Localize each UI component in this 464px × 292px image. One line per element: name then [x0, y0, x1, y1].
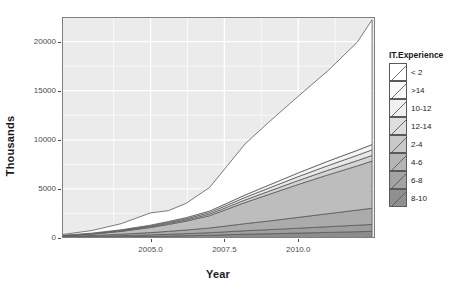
- legend-swatch: [389, 189, 407, 207]
- x-tick-label: 2007.5: [199, 245, 249, 255]
- y-tick-mark: [58, 238, 61, 239]
- y-tick-label: 5000: [12, 184, 56, 194]
- y-tick-mark: [58, 189, 61, 190]
- legend-label: 10-12: [411, 104, 431, 113]
- legend-swatch: [389, 171, 407, 189]
- y-tick-label: 0: [12, 233, 56, 243]
- x-axis-title: Year: [60, 268, 376, 280]
- legend-title: IT.Experience: [389, 50, 461, 60]
- x-tick-mark: [224, 239, 225, 242]
- y-tick-label: 20000: [12, 37, 56, 47]
- legend-swatch: [389, 153, 407, 171]
- y-tick-mark: [58, 91, 61, 92]
- legend-item[interactable]: 8-10: [389, 189, 461, 207]
- x-tick-mark: [298, 239, 299, 242]
- legend-swatch: [389, 135, 407, 153]
- legend-item[interactable]: 12-14: [389, 117, 461, 135]
- legend-label: 2-4: [411, 140, 423, 149]
- y-tick-mark: [58, 42, 61, 43]
- legend-swatch: [389, 117, 407, 135]
- legend-item[interactable]: < 2: [389, 63, 461, 81]
- y-tick-mark: [58, 140, 61, 141]
- legend-label: 8-10: [411, 194, 427, 203]
- legend: IT.Experience < 2>1410-1212-142-44-66-88…: [389, 50, 461, 207]
- y-tick-label: 10000: [12, 135, 56, 145]
- legend-item[interactable]: 2-4: [389, 135, 461, 153]
- y-tick-label: 15000: [12, 86, 56, 96]
- legend-swatch: [389, 63, 407, 81]
- x-tick-mark: [151, 239, 152, 242]
- legend-label: 4-6: [411, 158, 423, 167]
- legend-label: 12-14: [411, 122, 431, 131]
- chart-figure: Thousands Year 05000100001500020000 2005…: [0, 0, 464, 292]
- legend-item[interactable]: 10-12: [389, 99, 461, 117]
- legend-label: < 2: [411, 68, 422, 77]
- legend-label: >14: [411, 86, 425, 95]
- legend-item[interactable]: 4-6: [389, 153, 461, 171]
- x-tick-label: 2005.0: [126, 245, 176, 255]
- legend-items: < 2>1410-1212-142-44-66-88-10: [389, 63, 461, 207]
- legend-item[interactable]: >14: [389, 81, 461, 99]
- x-tick-label: 2010.0: [273, 245, 323, 255]
- stacked-area-plot: [62, 17, 375, 238]
- plot-panel: [62, 17, 375, 238]
- legend-label: 6-8: [411, 176, 423, 185]
- legend-swatch: [389, 99, 407, 117]
- legend-swatch: [389, 81, 407, 99]
- legend-item[interactable]: 6-8: [389, 171, 461, 189]
